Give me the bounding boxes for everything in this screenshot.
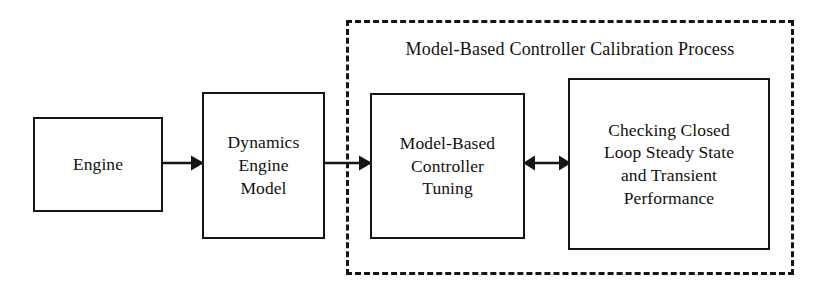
arrow-tuning-checking-bidirectional: [523, 150, 571, 176]
node-dynamics-engine-model[interactable]: Dynamics Engine Model: [202, 92, 325, 239]
node-model-based-controller-tuning-label: Model-Based Controller Tuning: [396, 132, 499, 200]
arrow-engine-to-dynamics: [161, 150, 205, 176]
node-model-based-controller-tuning[interactable]: Model-Based Controller Tuning: [370, 93, 525, 239]
diagram-canvas: Model-Based Controller Calibration Proce…: [0, 0, 828, 288]
node-engine-label: Engine: [69, 153, 127, 176]
calibration-process-title: Model-Based Controller Calibration Proce…: [346, 39, 794, 61]
node-checking-closed-loop-performance[interactable]: Checking Closed Loop Steady State and Tr…: [568, 78, 770, 250]
node-engine[interactable]: Engine: [33, 117, 163, 212]
arrow-dynamics-to-tuning: [323, 150, 373, 176]
node-dynamics-engine-model-label: Dynamics Engine Model: [224, 131, 304, 199]
node-checking-closed-loop-performance-label: Checking Closed Loop Steady State and Tr…: [600, 119, 738, 210]
